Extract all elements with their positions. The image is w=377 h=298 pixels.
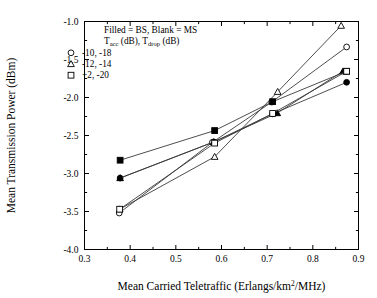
legend-marker-circle bbox=[68, 50, 74, 56]
data-point-4-0 bbox=[117, 157, 123, 163]
chart-figure: 0.30.40.50.60.70.80.9-1.0-1.5-2.0-2.5-3.… bbox=[0, 0, 377, 298]
plot-canvas: 0.30.40.50.60.70.80.9-1.0-1.5-2.0-2.5-3.… bbox=[0, 0, 377, 298]
series-line-3 bbox=[120, 26, 341, 210]
data-point-3-3 bbox=[338, 22, 345, 28]
legend-marker-square bbox=[68, 72, 74, 78]
x-tick-label: 0.9 bbox=[353, 254, 365, 264]
data-point-5-2 bbox=[270, 111, 276, 117]
x-tick-label: 0.7 bbox=[261, 254, 273, 264]
data-point-4-2 bbox=[270, 99, 276, 105]
data-point-1-3 bbox=[344, 44, 350, 50]
data-point-5-0 bbox=[117, 206, 123, 212]
y-tick-label: -2.5 bbox=[63, 131, 78, 141]
series-line-0 bbox=[120, 82, 347, 178]
legend-label-0: -10, -18 bbox=[82, 48, 112, 58]
series-line-1 bbox=[119, 47, 346, 213]
y-tick-label: -3.0 bbox=[63, 169, 78, 179]
y-tick-label: -4.0 bbox=[63, 245, 78, 255]
legend-note-filled-blank: Filled = BS, Blank = MS bbox=[104, 25, 197, 35]
y-tick-label: -2.0 bbox=[63, 93, 78, 103]
y-axis-title: Mean Transmission Power (dBm) bbox=[5, 58, 18, 214]
data-point-4-1 bbox=[212, 128, 218, 134]
x-tick-label: 0.5 bbox=[170, 254, 182, 264]
legend-note-thresholds: Tacc (dB), Tdrop (dB) bbox=[104, 36, 179, 47]
x-tick-label: 0.3 bbox=[79, 254, 91, 264]
series-line-2 bbox=[120, 71, 343, 178]
data-point-5-1 bbox=[212, 140, 218, 146]
x-tick-label: 0.6 bbox=[216, 254, 228, 264]
data-point-5-3 bbox=[344, 68, 350, 74]
x-tick-label: 0.8 bbox=[307, 254, 319, 264]
y-tick-label: -3.5 bbox=[63, 207, 78, 217]
y-tick-label: -1.0 bbox=[63, 17, 78, 27]
legend-label-1: -12, -14 bbox=[82, 59, 112, 69]
series-line-5 bbox=[120, 71, 347, 209]
x-axis-title: Mean Carried Teletraffic (Erlangs/km2/MH… bbox=[118, 279, 326, 293]
x-tick-label: 0.4 bbox=[124, 254, 136, 264]
data-point-0-3 bbox=[344, 79, 350, 85]
plot-frame bbox=[85, 22, 359, 250]
legend-label-2: +2, -20 bbox=[82, 70, 109, 80]
series-line-4 bbox=[120, 71, 347, 160]
